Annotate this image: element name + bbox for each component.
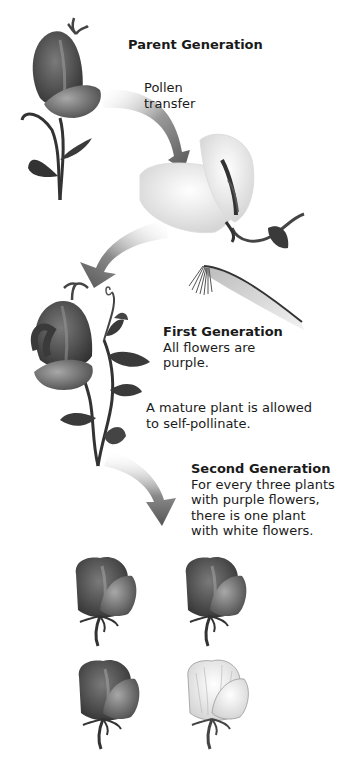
pea-plant-cross-illustration bbox=[0, 0, 342, 759]
offspring-flower-4-white-icon bbox=[188, 660, 249, 749]
second-generation-desc-line4: with white flowers. bbox=[191, 523, 335, 539]
offspring-flower-1-purple-icon bbox=[76, 557, 137, 646]
self-pollinate-label: A mature plant is allowed to self-pollin… bbox=[146, 400, 312, 431]
second-generation-desc-line3: there is one plant bbox=[191, 508, 335, 524]
first-generation-desc-line1: All flowers are bbox=[163, 340, 283, 356]
first-generation-title: First Generation bbox=[163, 324, 283, 340]
self-pollinate-line1: A mature plant is allowed bbox=[146, 400, 312, 416]
to-second-generation-arrow-icon bbox=[104, 450, 176, 526]
second-generation-block: Second Generation For every three plants… bbox=[191, 461, 335, 539]
parent-purple-flower-icon bbox=[22, 18, 101, 200]
offspring-flower-2-purple-icon bbox=[186, 557, 247, 646]
pollen-transfer-line1: Pollen bbox=[144, 80, 195, 96]
self-pollinate-line2: to self-pollinate. bbox=[146, 416, 312, 432]
pollen-transfer-line2: transfer bbox=[144, 96, 195, 112]
first-generation-purple-flower-icon bbox=[34, 283, 150, 466]
second-generation-desc-line1: For every three plants bbox=[191, 477, 335, 493]
to-first-generation-arrow-icon bbox=[80, 220, 168, 288]
second-generation-desc-line2: with purple flowers, bbox=[191, 492, 335, 508]
first-generation-block: First Generation All flowers are purple. bbox=[163, 324, 283, 371]
second-generation-title: Second Generation bbox=[191, 461, 335, 477]
offspring-flower-3-purple-icon bbox=[79, 660, 140, 749]
first-generation-desc-line2: purple. bbox=[163, 355, 283, 371]
parent-generation-title: Parent Generation bbox=[128, 37, 263, 53]
pollen-transfer-label: Pollen transfer bbox=[144, 80, 195, 111]
pollen-brush-icon bbox=[189, 266, 304, 330]
